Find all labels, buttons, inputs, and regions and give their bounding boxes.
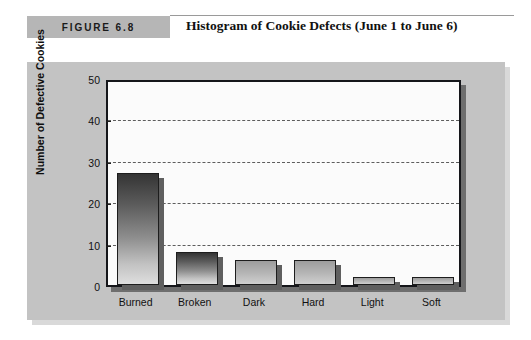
bar-fill [235,260,277,285]
y-axis-tick-mark [106,246,111,247]
figure-title: Histogram of Cookie Defects (June 1 to J… [186,18,457,34]
bar-fill [412,277,454,285]
figure-header: FIGURE 6.8 Histogram of Cookie Defects (… [0,0,531,56]
bar [294,260,336,285]
figure-label-badge: FIGURE 6.8 [27,16,170,38]
plot-area [106,80,461,287]
y-axis-tick-label: 50 [76,74,100,86]
y-axis-tick-label: 20 [76,198,100,210]
bar [117,173,159,285]
x-axis-tick-label: Light [361,296,384,308]
y-axis-tick-label: 30 [76,157,100,169]
figure-label-text: FIGURE 6.8 [62,22,135,33]
y-axis-tick-labels: 01020304050 [76,80,100,287]
y-axis-title: Number of Defective Cookies [34,22,46,182]
y-axis-tick-label: 40 [76,115,100,127]
bar-fill [294,260,336,285]
y-axis-tick-mark [106,121,111,122]
y-axis-tick-mark [106,204,111,205]
y-axis-tick-label: 0 [76,281,100,293]
y-axis-tick-label: 10 [76,240,100,252]
x-axis-tick-label: Hard [302,296,325,308]
plot-inner [108,82,459,285]
x-axis-tick-label: Dark [243,296,265,308]
x-axis-tick-label: Burned [119,296,153,308]
x-axis-tick-label: Soft [422,296,441,308]
header-divider-rule [170,15,514,16]
bar [235,260,277,285]
bar-fill [176,252,218,285]
bar [412,277,454,285]
bar-fill [117,173,159,285]
bar [353,277,395,285]
x-axis-tick-label: Broken [178,296,211,308]
gridline [108,162,459,163]
gridline [108,120,459,121]
bar [176,252,218,285]
y-axis-tick-mark [106,163,111,164]
bar-fill [353,277,395,285]
